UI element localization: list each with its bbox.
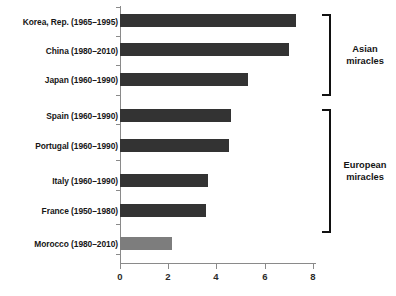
x-tick-mark — [168, 264, 169, 269]
bar-korea — [120, 14, 296, 27]
category-axis-labels: Korea, Rep. (1965–1995) China (1980–2010… — [0, 0, 118, 296]
x-tick-label-2: 2 — [165, 271, 170, 282]
bar-china — [120, 43, 289, 56]
bar-japan — [120, 73, 248, 86]
x-tick-label-8: 8 — [310, 271, 315, 282]
x-tick-mark — [216, 264, 217, 269]
category-label-morocco: Morocco (1980–2010) — [0, 239, 118, 249]
y-tick-mark — [116, 254, 120, 255]
y-tick-mark — [116, 65, 120, 66]
group-label-european-line1: European — [344, 160, 387, 170]
y-tick-mark — [116, 36, 120, 37]
y-tick-mark — [116, 190, 120, 191]
category-label-japan: Japan (1960–1990) — [0, 75, 118, 85]
category-label-korea: Korea, Rep. (1965–1995) — [0, 17, 118, 27]
x-tick-mark — [313, 264, 314, 269]
group-bracket-european — [322, 109, 331, 233]
x-axis-line — [120, 263, 316, 264]
category-label-france: France (1950–1980) — [0, 206, 118, 216]
bar-chart: Korea, Rep. (1965–1995) China (1980–2010… — [0, 0, 396, 296]
plot-area: 0 2 4 6 8 — [120, 0, 320, 264]
bar-morocco — [120, 237, 172, 250]
x-tick-label-4: 4 — [213, 271, 218, 282]
category-label-spain: Spain (1960–1990) — [0, 111, 118, 121]
group-label-asian-line2: miracles — [346, 56, 384, 66]
y-tick-mark — [116, 224, 120, 225]
y-tick-mark — [116, 7, 120, 8]
x-tick-label-0: 0 — [117, 271, 122, 282]
category-label-portugal: Portugal (1960–1990) — [0, 141, 118, 151]
group-bracket-asian — [322, 14, 331, 96]
group-label-asian: Asian miracles — [336, 43, 394, 67]
group-label-european-line2: miracles — [346, 172, 384, 182]
category-label-china: China (1980–2010) — [0, 46, 118, 56]
y-tick-mark — [116, 124, 120, 125]
bar-portugal — [120, 139, 229, 152]
x-tick-mark — [265, 264, 266, 269]
bar-spain — [120, 109, 231, 122]
y-tick-mark — [116, 160, 120, 161]
x-tick-label-6: 6 — [262, 271, 267, 282]
group-label-european: European miracles — [336, 159, 394, 183]
group-label-asian-line1: Asian — [352, 44, 377, 54]
x-tick-mark — [120, 264, 121, 269]
category-label-italy: Italy (1960–1990) — [0, 176, 118, 186]
bar-france — [120, 204, 206, 217]
y-tick-mark — [116, 95, 120, 96]
bar-italy — [120, 174, 208, 187]
